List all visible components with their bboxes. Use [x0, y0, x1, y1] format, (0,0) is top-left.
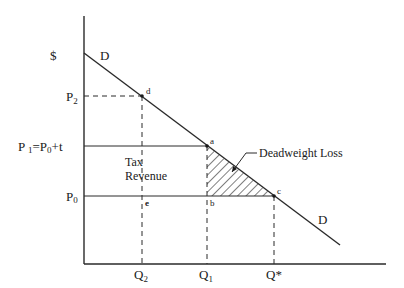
point-a-label: a — [210, 136, 214, 146]
demand-label-top: D — [100, 48, 109, 63]
point-a — [205, 144, 209, 148]
deadweight-loss-label: Deadweight Loss — [259, 146, 343, 160]
tax-revenue-label-line1: Tax — [125, 155, 143, 169]
point-e-label: e — [145, 198, 149, 208]
tax-revenue-label-line2: Revenue — [125, 169, 167, 183]
point-c-label: c — [277, 186, 281, 196]
point-c — [272, 194, 276, 198]
p1-label: P 1=P0+t — [18, 139, 63, 155]
q2-label: Q2 — [134, 267, 148, 284]
p2-label: P2 — [66, 89, 78, 106]
deadweight-loss-diagram: d a b c e $ D D P2 P 1=P0+t P0 Q2 Q1 Q* … — [0, 0, 404, 288]
point-b-label: b — [210, 198, 215, 208]
y-axis-label: $ — [50, 48, 57, 63]
demand-label-bottom: D — [318, 212, 327, 227]
qstar-label: Q* — [266, 267, 282, 282]
point-d — [140, 94, 144, 98]
point-d-label: d — [146, 86, 151, 96]
q1-label: Q1 — [199, 267, 213, 284]
p0-label: P0 — [66, 189, 78, 205]
